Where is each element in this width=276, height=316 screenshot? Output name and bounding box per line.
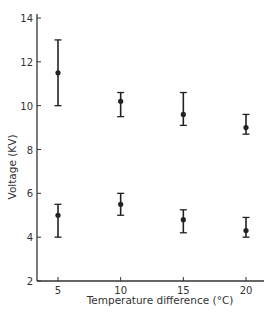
data-point [243,217,250,237]
marker-dot [181,112,186,117]
series-lower [55,193,250,237]
x-tick-label: 5 [55,285,61,296]
marker-dot [118,99,123,104]
y-tick-label: 4 [27,232,33,243]
marker-dot [55,213,60,218]
data-point [180,210,187,233]
voltage-vs-temperature-plot: 24681012145101520 Temperature difference… [0,0,276,316]
x-axis-label: Temperature difference (°C) [86,294,234,306]
data-point [55,204,62,237]
y-axis-label: Voltage (KV) [6,135,18,200]
y-tick-label: 2 [27,276,33,287]
marker-dot [181,217,186,222]
data-point [55,40,62,106]
marker-dot [243,125,248,130]
data-point [117,93,124,117]
marker-dot [118,202,123,207]
marker-dot [243,228,248,233]
x-tick-label: 20 [240,285,253,296]
axes: 24681012145101520 [20,13,264,296]
series-upper [55,40,250,134]
data-point [243,114,250,134]
data-point [180,93,187,126]
y-tick-label: 8 [27,145,33,156]
y-tick-label: 6 [27,188,33,199]
data-series [55,40,250,237]
y-tick-label: 14 [20,13,33,24]
marker-dot [55,70,60,75]
chart: 24681012145101520 Temperature difference… [0,0,276,316]
data-point [117,193,124,215]
y-tick-label: 12 [20,57,33,68]
y-tick-label: 10 [20,101,33,112]
